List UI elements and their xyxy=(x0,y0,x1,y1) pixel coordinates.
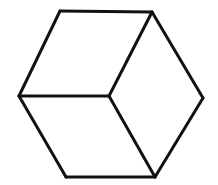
cube-diagram xyxy=(0,0,218,185)
top-edge xyxy=(60,11,152,12)
canvas-background xyxy=(0,0,218,185)
